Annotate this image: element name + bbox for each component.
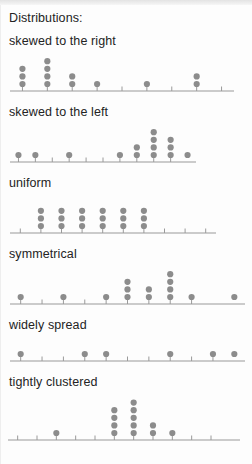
dotplot-svg-skewed-right	[0, 49, 252, 97]
data-dot	[194, 81, 200, 87]
data-dot	[15, 152, 21, 158]
data-dot	[117, 152, 123, 158]
data-dot	[100, 223, 106, 229]
data-dot	[167, 286, 173, 292]
data-dot	[167, 294, 173, 300]
data-dot	[168, 152, 174, 158]
data-dot	[184, 152, 190, 158]
data-dot	[38, 215, 44, 221]
data-dot	[120, 223, 126, 229]
data-dot	[188, 294, 194, 300]
plot-label-skewed-left: skewed to the left	[0, 97, 252, 120]
data-dot	[32, 152, 38, 158]
data-dot	[194, 73, 200, 79]
data-dot	[210, 351, 216, 357]
dotplot-skewed-right	[0, 49, 252, 97]
data-dot	[124, 279, 130, 285]
data-dot	[58, 215, 64, 221]
content-column: Distributions: skewed to the right skewe…	[0, 5, 252, 446]
distributions-page: Distributions: skewed to the right skewe…	[0, 0, 252, 464]
data-dot	[58, 223, 64, 229]
data-dot	[124, 294, 130, 300]
data-dot	[131, 407, 137, 413]
data-dot	[58, 208, 64, 214]
data-dot	[151, 144, 157, 150]
data-dot	[120, 208, 126, 214]
data-dot	[44, 66, 50, 72]
data-dot	[79, 223, 85, 229]
plot-label-tightly-clustered: tightly clustered	[0, 367, 252, 390]
data-dot	[66, 152, 72, 158]
data-dot	[231, 351, 237, 357]
data-dot	[141, 208, 147, 214]
data-dot	[169, 430, 175, 436]
data-dot	[82, 351, 88, 357]
data-dot	[19, 66, 25, 72]
data-dot	[44, 73, 50, 79]
data-dot	[44, 81, 50, 87]
data-dot	[131, 422, 137, 428]
data-dot	[103, 294, 109, 300]
data-dot	[79, 208, 85, 214]
data-dot	[18, 351, 24, 357]
dotplot-svg-tightly-clustered	[0, 390, 252, 446]
dotplot-svg-skewed-left	[0, 120, 252, 168]
plot-label-uniform: uniform	[0, 168, 252, 191]
dotplot-svg-symmetrical	[0, 262, 252, 310]
plot-label-skewed-right: skewed to the right	[0, 26, 252, 49]
data-dot	[44, 58, 50, 64]
data-dot	[144, 81, 150, 87]
data-dot	[134, 152, 140, 158]
data-dot	[151, 129, 157, 135]
data-dot	[18, 294, 24, 300]
dotplot-symmetrical	[0, 262, 252, 310]
data-dot	[111, 422, 117, 428]
data-dot	[100, 215, 106, 221]
data-dot	[38, 208, 44, 214]
data-dot	[120, 215, 126, 221]
data-dot	[141, 215, 147, 221]
data-dot	[131, 400, 137, 406]
data-dot	[151, 137, 157, 143]
data-dot	[146, 294, 152, 300]
data-dot	[69, 81, 75, 87]
data-dot	[150, 430, 156, 436]
dotplot-uniform	[0, 191, 252, 239]
data-dot	[151, 152, 157, 158]
page-title: Distributions:	[0, 5, 252, 26]
data-dot	[69, 73, 75, 79]
dotplot-svg-uniform	[0, 191, 252, 239]
data-dot	[60, 294, 66, 300]
data-dot	[168, 137, 174, 143]
data-dot	[168, 144, 174, 150]
data-dot	[131, 415, 137, 421]
plot-label-symmetrical: symmetrical	[0, 239, 252, 262]
data-dot	[111, 407, 117, 413]
data-dot	[141, 223, 147, 229]
data-dot	[124, 286, 130, 292]
data-dot	[231, 294, 237, 300]
dotplot-skewed-left	[0, 120, 252, 168]
data-dot	[167, 271, 173, 277]
dotplot-svg-widely-spread	[0, 333, 252, 367]
data-dot	[103, 351, 109, 357]
data-dot	[167, 351, 173, 357]
dotplot-tightly-clustered	[0, 390, 252, 446]
data-dot	[167, 279, 173, 285]
data-dot	[94, 81, 100, 87]
data-dot	[150, 422, 156, 428]
data-dot	[19, 73, 25, 79]
data-dot	[79, 215, 85, 221]
data-dot	[100, 208, 106, 214]
plot-label-widely-spread: widely spread	[0, 310, 252, 333]
data-dot	[19, 81, 25, 87]
data-dot	[131, 430, 137, 436]
data-dot	[111, 415, 117, 421]
data-dot	[134, 144, 140, 150]
dotplot-widely-spread	[0, 333, 252, 367]
data-dot	[146, 286, 152, 292]
data-dot	[38, 223, 44, 229]
data-dot	[111, 430, 117, 436]
data-dot	[53, 430, 59, 436]
